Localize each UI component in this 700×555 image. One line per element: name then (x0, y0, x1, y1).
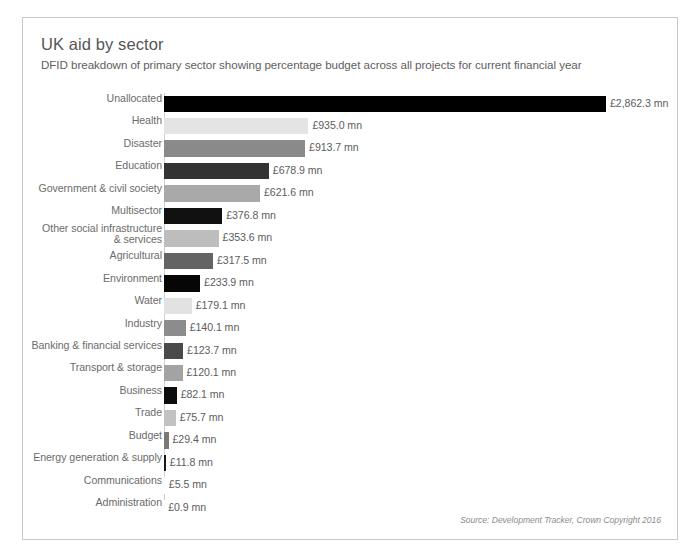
chart-subtitle: DFID breakdown of primary sector showing… (41, 58, 661, 72)
bar-value-label: £0.9 mn (168, 501, 206, 513)
category-label: Unallocated (0, 93, 162, 104)
bar-row: Budget£29.4 mn (23, 430, 677, 452)
bar-value-label: £678.9 mn (273, 164, 323, 176)
bar-chart-plot-area: Unallocated£2,862.3 mnHealth£935.0 mnDis… (23, 93, 677, 513)
bar-row: Health£935.0 mn (23, 115, 677, 137)
bar-row: Government & civil society£621.6 mn (23, 183, 677, 205)
bar-value-label: £82.1 mn (181, 388, 225, 400)
bar (164, 343, 183, 359)
category-label: Education (0, 160, 162, 171)
category-label: Transport & storage (0, 362, 162, 373)
bar-row: Water£179.1 mn (23, 295, 677, 317)
bar (164, 118, 308, 134)
bar (164, 455, 166, 471)
bar (164, 298, 192, 314)
category-label: Banking & financial services (0, 340, 162, 351)
bar (164, 163, 269, 179)
bar (164, 387, 177, 403)
category-label: Environment (0, 273, 162, 284)
bar-row: Unallocated£2,862.3 mn (23, 93, 677, 115)
bar (164, 140, 305, 156)
bar (164, 253, 213, 269)
bar-row: Disaster£913.7 mn (23, 138, 677, 160)
category-label: Industry (0, 318, 162, 329)
category-label: Water (0, 295, 162, 306)
bar-value-label: £179.1 mn (196, 299, 246, 311)
category-label: Health (0, 115, 162, 126)
source-note: Source: Development Tracker, Crown Copyr… (460, 515, 661, 525)
bar-row: Communications£5.5 mn (23, 475, 677, 497)
bar-value-label: £621.6 mn (264, 186, 314, 198)
bar (164, 365, 183, 381)
bar-value-label: £2,862.3 mn (610, 97, 668, 109)
bar-value-label: £29.4 mn (173, 433, 217, 445)
bar (164, 477, 165, 493)
bar-row: Environment£233.9 mn (23, 273, 677, 295)
bar-value-label: £11.8 mn (170, 456, 213, 468)
category-label: Communications (0, 475, 162, 486)
bar-value-label: £233.9 mn (204, 276, 254, 288)
category-label: Business (0, 385, 162, 396)
bar (164, 320, 186, 336)
bar-row: Trade£75.7 mn (23, 407, 677, 429)
category-label: Agricultural (0, 250, 162, 261)
bar-value-label: £376.8 mn (226, 209, 276, 221)
bar-row: Energy generation & supply£11.8 mn (23, 452, 677, 474)
bar-value-label: £5.5 mn (169, 478, 207, 490)
category-label: Government & civil society (0, 183, 162, 194)
bar-row: Industry£140.1 mn (23, 318, 677, 340)
bar (164, 96, 606, 112)
category-label: Trade (0, 407, 162, 418)
bar-value-label: £317.5 mn (217, 254, 267, 266)
bar-row: Transport & storage£120.1 mn (23, 362, 677, 384)
chart-frame: UK aid by sector DFID breakdown of prima… (22, 17, 678, 540)
bar-value-label: £120.1 mn (187, 366, 237, 378)
category-label: Energy generation & supply (0, 452, 162, 463)
bar-row: Business£82.1 mn (23, 385, 677, 407)
category-label: Administration (0, 497, 162, 508)
category-label: Budget (0, 430, 162, 441)
bar-value-label: £123.7 mn (187, 344, 237, 356)
category-label: Multisector (0, 205, 162, 216)
category-label: Disaster (0, 138, 162, 149)
bar-row: Agricultural£317.5 mn (23, 250, 677, 272)
bar-row: Other social infrastructure & services£3… (23, 228, 677, 250)
chart-title: UK aid by sector (41, 35, 661, 54)
bar (164, 230, 219, 246)
bar (164, 208, 222, 224)
bar (164, 275, 200, 291)
bar (164, 185, 260, 201)
bar (164, 410, 176, 426)
bar-value-label: £75.7 mn (180, 411, 224, 423)
bar-value-label: £913.7 mn (309, 141, 359, 153)
chart-header: UK aid by sector DFID breakdown of prima… (41, 35, 661, 72)
bar-value-label: £140.1 mn (190, 321, 240, 333)
bar-value-label: £353.6 mn (223, 231, 273, 243)
bar (164, 432, 169, 448)
bar-row: Education£678.9 mn (23, 160, 677, 182)
category-label: Other social infrastructure & services (0, 223, 162, 245)
bar-row: Banking & financial services£123.7 mn (23, 340, 677, 362)
bar-value-label: £935.0 mn (312, 119, 362, 131)
